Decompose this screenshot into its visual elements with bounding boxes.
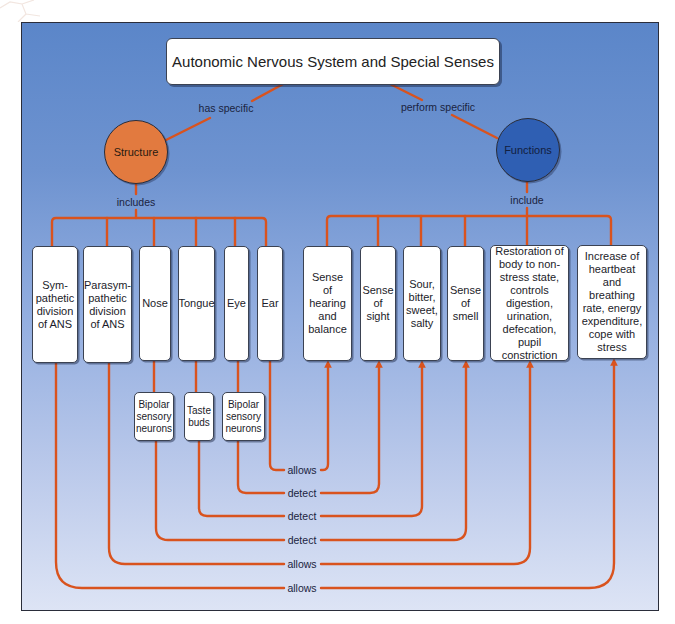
structure-nose: Nose [139,246,171,361]
receptor-taste-buds: Taste buds [184,392,214,441]
structure-sympathetic: Sym-pathetic division of ANS [32,246,78,363]
link-label-perform-specific: perform specific [399,101,477,113]
structure-tongue: Tongue [178,246,215,361]
function-sight: Sense of sight [360,246,396,361]
receptor-nose-bipolar: Bipolar sensory neurons [134,392,174,441]
title-node: Autonomic Nervous System and Special Sen… [166,38,500,85]
connection-label-sym-allows: allows [287,582,316,594]
functions-node: Functions [496,118,560,182]
functions-label: Functions [504,144,552,156]
function-hearing: Sense of hearing and balance [303,246,352,361]
structure-ear: Ear [257,246,283,361]
link-label-has-specific: has specific [197,102,256,114]
structure-parasympathetic: Parasym-pathetic division of ANS [83,246,132,363]
hexagon-decoration [0,0,60,22]
connection-label-nose-detect: detect [288,534,317,546]
function-taste: Sour, bitter, sweet, salty [403,246,441,361]
link-label-include: include [508,194,545,206]
connection-label-ear-allows: allows [287,464,316,476]
function-smell: Sense of smell [447,246,484,361]
structure-node: Structure [104,120,168,184]
structure-eye: Eye [224,246,249,361]
function-increase: Increase of heartbeat and breathing rate… [577,245,647,359]
connection-label-tongue-detect: detect [288,510,317,522]
receptor-eye-bipolar: Bipolar sensory neurons [222,392,265,441]
link-label-includes: includes [115,196,158,208]
function-restoration: Restoration of body to non-stress state,… [490,245,569,361]
connection-label-eye-detect: detect [288,487,317,499]
structure-label: Structure [114,146,159,158]
connection-label-parasym-allows: allows [287,558,316,570]
